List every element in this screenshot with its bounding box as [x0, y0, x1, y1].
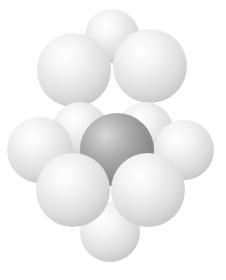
sphere-cluster-diagram [0, 0, 226, 280]
sphere-bottom-front-left [36, 153, 110, 227]
sphere-top-right [113, 29, 187, 103]
sphere-top-left [37, 33, 111, 107]
sphere-bottom-front-right [111, 153, 185, 227]
